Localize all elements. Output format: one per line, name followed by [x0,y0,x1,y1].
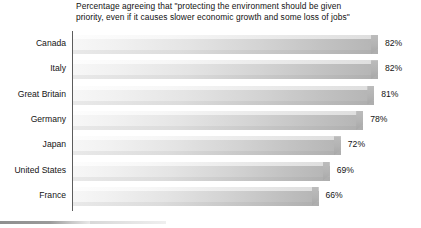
bar-highlight [73,111,363,115]
bar-category-label: Italy [0,63,66,73]
bar-value-label: 69% [337,165,354,175]
bar-shadow [73,50,378,54]
bar-value-label: 82% [385,38,402,48]
bar-category-label: Germany [0,114,66,124]
bar-row: Canada82% [0,32,421,57]
bar [73,136,341,155]
bar-row: France66% [0,184,421,209]
bar [73,111,363,130]
bar-value-label: 78% [370,114,387,124]
bar-shadow [73,126,363,130]
bar-highlight [73,136,341,140]
bar-row: Japan72% [0,133,421,158]
bar-shadow [73,202,319,206]
bar-row: Germany78% [0,108,421,133]
footer-rule-fragment-tail [90,221,166,224]
bar-row: Great Britain81% [0,83,421,108]
bar-category-label: France [0,190,66,200]
bar-value-label: 72% [348,139,365,149]
bar-value-label: 82% [385,63,402,73]
bar-value-label: 81% [381,89,398,99]
bar-shadow [73,75,378,79]
plot-area: Canada82%Italy82%Great Britain81%Germany… [0,27,421,211]
bar-highlight [73,162,330,166]
bar-highlight [73,60,378,64]
bar [73,162,330,181]
bar-shadow [73,177,330,181]
bar [73,187,319,206]
bar-row: United States69% [0,159,421,184]
bar-chart-figure: Percentage agreeing that "protecting the… [0,0,421,228]
bar [73,60,378,79]
bar-highlight [73,187,319,191]
bar-shadow [73,151,341,155]
bar-category-label: United States [0,165,66,175]
bar-row: Italy82% [0,57,421,82]
footer-rule-fragment [0,221,90,224]
chart-title: Percentage agreeing that "protecting the… [76,1,406,22]
bar-highlight [73,35,378,39]
bar-highlight [73,86,374,90]
bar-value-label: 66% [326,190,343,200]
bar-shadow [73,101,374,105]
bar-category-label: Japan [0,139,66,149]
bar-category-label: Great Britain [0,89,66,99]
bar [73,35,378,54]
bar-category-label: Canada [0,38,66,48]
bar [73,86,374,105]
